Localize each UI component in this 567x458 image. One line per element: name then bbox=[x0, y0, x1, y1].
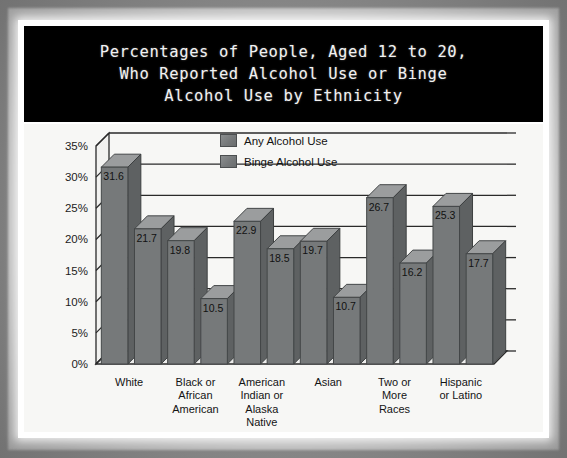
legend-item: Any Alcohol Use bbox=[220, 134, 337, 147]
legend-swatch-icon bbox=[220, 155, 237, 168]
x-axis-category-label: Asian bbox=[291, 376, 365, 389]
bar-value-label: 19.7 bbox=[302, 244, 322, 256]
chart-panel: 31.621.719.810.522.918.519.710.726.716.2… bbox=[24, 124, 543, 432]
bar-value-label: 18.5 bbox=[269, 252, 289, 264]
bar-value-label: 10.5 bbox=[203, 302, 223, 314]
x-axis-category-line: Native bbox=[225, 416, 299, 429]
bar-value-label: 26.7 bbox=[369, 201, 389, 213]
x-axis-category-line: African bbox=[158, 389, 232, 402]
bar-value-label: 21.7 bbox=[136, 232, 156, 244]
x-axis-category-line: Two or bbox=[357, 376, 431, 389]
bar-value-label: 16.2 bbox=[402, 266, 422, 278]
x-axis-category-line: Races bbox=[357, 403, 431, 416]
legend-item: Binge Alcohol Use bbox=[220, 155, 337, 168]
bar-value-label: 22.9 bbox=[236, 224, 256, 236]
bar-value-label: 31.6 bbox=[103, 170, 123, 182]
bar-value-label: 25.3 bbox=[435, 209, 455, 221]
y-axis-tick-label: 25% bbox=[65, 202, 88, 214]
x-axis-category-line: Indian or bbox=[225, 389, 299, 402]
y-axis-tick-label: 10% bbox=[65, 296, 88, 308]
x-axis-category-label: Black orAfricanAmerican bbox=[158, 376, 232, 416]
x-axis-category-label: White bbox=[92, 376, 166, 389]
y-axis-tick-label: 0% bbox=[71, 358, 88, 370]
y-axis-tick-label: 5% bbox=[71, 327, 88, 339]
legend-label: Binge Alcohol Use bbox=[244, 156, 337, 168]
bar-value-label: 17.7 bbox=[468, 257, 488, 269]
legend-swatch-icon bbox=[220, 134, 237, 147]
chart-legend: Any Alcohol UseBinge Alcohol Use bbox=[220, 134, 337, 176]
x-axis-category-line: American bbox=[158, 403, 232, 416]
x-axis-category-line: White bbox=[92, 376, 166, 389]
x-axis-category-line: American bbox=[225, 376, 299, 389]
bar-value-label: 10.7 bbox=[335, 300, 355, 312]
y-axis-tick-label: 20% bbox=[65, 233, 88, 245]
x-axis-category-label: Two orMoreRaces bbox=[357, 376, 431, 416]
x-axis-category-line: Hispanic bbox=[424, 376, 498, 389]
bar-value-label: 19.8 bbox=[170, 244, 190, 256]
x-axis-category-line: Alaska bbox=[225, 403, 299, 416]
x-axis-category-line: or Latino bbox=[424, 389, 498, 402]
x-axis-category-label: Hispanicor Latino bbox=[424, 376, 498, 403]
x-axis-category-line: More bbox=[357, 389, 431, 402]
y-axis-tick-label: 35% bbox=[65, 140, 88, 152]
legend-label: Any Alcohol Use bbox=[244, 135, 328, 147]
y-axis-labels: 0%5%10%15%20%25%30%35% bbox=[36, 124, 88, 432]
y-axis-tick-label: 15% bbox=[65, 265, 88, 277]
y-axis-tick-label: 30% bbox=[65, 171, 88, 183]
chart-title: Percentages of People, Aged 12 to 20, Wh… bbox=[100, 41, 467, 107]
title-banner: Percentages of People, Aged 12 to 20, Wh… bbox=[24, 26, 543, 122]
x-axis-category-line: Asian bbox=[291, 376, 365, 389]
x-axis-category-line: Black or bbox=[158, 376, 232, 389]
x-axis-category-label: AmericanIndian orAlaskaNative bbox=[225, 376, 299, 430]
screenshot-frame: Percentages of People, Aged 12 to 20, Wh… bbox=[0, 0, 567, 458]
